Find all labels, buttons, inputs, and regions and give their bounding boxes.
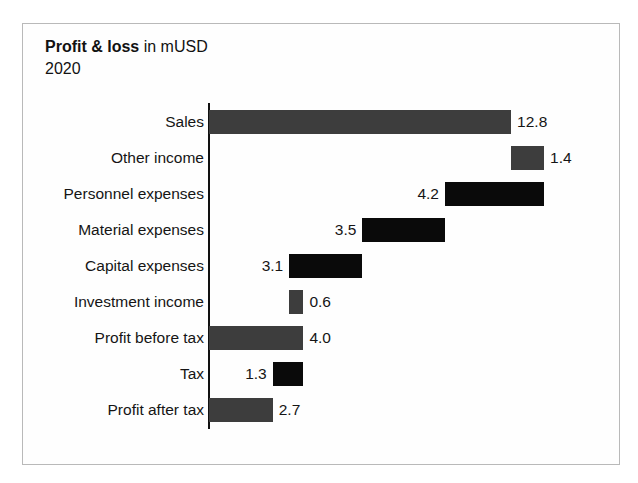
waterfall-bar [209, 326, 303, 350]
value-label: 4.0 [309, 320, 331, 356]
waterfall-bar [511, 146, 544, 170]
value-label: 12.8 [517, 104, 547, 140]
category-label: Personnel expenses [64, 176, 204, 212]
waterfall-row: Sales12.8 [0, 104, 638, 140]
waterfall-row: Profit after tax2.7 [0, 392, 638, 428]
value-label: 1.4 [550, 140, 572, 176]
waterfall-row: Other income1.4 [0, 140, 638, 176]
category-label: Capital expenses [85, 248, 204, 284]
waterfall-row: Investment income0.6 [0, 284, 638, 320]
category-label: Profit before tax [95, 320, 204, 356]
category-label: Other income [111, 140, 204, 176]
waterfall-bar [289, 254, 362, 278]
value-label: 4.2 [417, 176, 439, 212]
waterfall-bar [209, 110, 511, 134]
value-label: 3.1 [262, 248, 284, 284]
waterfall-bar [273, 362, 304, 386]
waterfall-bar [209, 398, 273, 422]
waterfall-row: Material expenses3.5 [0, 212, 638, 248]
value-label: 0.6 [309, 284, 331, 320]
category-label: Material expenses [78, 212, 204, 248]
category-label: Profit after tax [108, 392, 204, 428]
category-label: Tax [180, 356, 204, 392]
value-label: 1.3 [245, 356, 267, 392]
category-label: Sales [165, 104, 204, 140]
waterfall-plot-area: Sales12.8Other income1.4Personnel expens… [0, 0, 638, 483]
value-label: 2.7 [279, 392, 301, 428]
waterfall-row: Personnel expenses4.2 [0, 176, 638, 212]
waterfall-bar [289, 290, 303, 314]
waterfall-bar [445, 182, 544, 206]
waterfall-row: Capital expenses3.1 [0, 248, 638, 284]
waterfall-row: Profit before tax4.0 [0, 320, 638, 356]
waterfall-row: Tax1.3 [0, 356, 638, 392]
value-label: 3.5 [335, 212, 357, 248]
category-label: Investment income [74, 284, 204, 320]
waterfall-bar [362, 218, 445, 242]
chart-screenshot: Profit & loss in mUSD 2020 Sales12.8Othe… [0, 0, 638, 483]
